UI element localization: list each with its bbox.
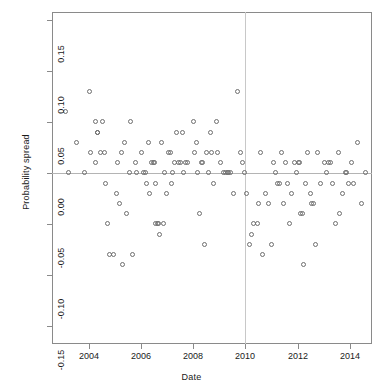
- data-point: [260, 252, 265, 257]
- data-point: [180, 130, 185, 135]
- data-point: [351, 181, 356, 186]
- data-point: [258, 150, 263, 155]
- y-tick-label: 0.05: [56, 122, 66, 139]
- data-point: [349, 160, 354, 165]
- data-point: [169, 181, 174, 186]
- data-point: [153, 181, 158, 186]
- y-tick-mark: [47, 224, 52, 225]
- data-point: [111, 252, 116, 257]
- x-tick-label: 2014: [340, 351, 360, 361]
- plot-area-border: [52, 12, 372, 344]
- data-point: [255, 221, 260, 226]
- data-point: [122, 140, 127, 145]
- data-point: [119, 150, 124, 155]
- data-point: [336, 150, 341, 155]
- y-axis-title: Probability spread: [21, 92, 31, 252]
- y-tick-label: 0.15: [56, 20, 66, 37]
- data-point: [340, 191, 345, 196]
- data-point: [192, 150, 197, 155]
- data-point: [231, 191, 236, 196]
- data-point: [208, 130, 213, 135]
- data-point: [133, 160, 138, 165]
- data-point: [103, 181, 108, 186]
- x-tick-label: 2006: [131, 351, 151, 361]
- data-point: [168, 150, 173, 155]
- data-point: [240, 160, 245, 165]
- y-tick-label: -0.05: [56, 224, 66, 241]
- x-tick-label: 2004: [79, 351, 99, 361]
- y-tick-label: -0.15: [56, 326, 66, 343]
- data-point: [269, 242, 274, 247]
- data-point: [300, 211, 305, 216]
- data-point: [281, 201, 286, 206]
- data-point: [303, 181, 308, 186]
- data-point: [266, 201, 271, 206]
- data-point: [247, 242, 252, 247]
- y-tick-label: 0.10: [56, 71, 66, 88]
- y-tick-mark: [47, 122, 52, 123]
- year-2010-reference-line: [245, 12, 246, 344]
- data-point: [146, 140, 151, 145]
- data-point: [139, 150, 144, 155]
- data-point: [144, 181, 149, 186]
- data-point: [244, 191, 249, 196]
- data-point: [249, 232, 254, 237]
- x-axis-title: Date: [0, 372, 383, 382]
- data-point: [235, 89, 240, 94]
- data-point: [93, 160, 98, 165]
- data-point: [308, 191, 313, 196]
- y-tick-mark: [47, 20, 52, 21]
- data-point: [194, 140, 199, 145]
- x-tick-label: 2010: [235, 351, 255, 361]
- x-tick-mark: [89, 344, 90, 349]
- data-point: [114, 191, 119, 196]
- x-tick-label: 2012: [288, 351, 308, 361]
- data-point: [117, 201, 122, 206]
- data-point: [242, 170, 247, 175]
- y-tick-label: 0.00: [56, 173, 66, 190]
- data-point: [301, 262, 306, 267]
- data-point: [263, 191, 268, 196]
- data-point: [359, 201, 364, 206]
- y-tick-mark: [47, 173, 52, 174]
- x-tick-mark: [350, 344, 351, 349]
- data-point: [279, 150, 284, 155]
- x-tick-mark: [245, 344, 246, 349]
- y-tick-mark: [47, 275, 52, 276]
- data-point: [157, 232, 162, 237]
- data-point: [330, 181, 335, 186]
- x-tick-mark: [141, 344, 142, 349]
- scatter-plot: 200420062008201020122014 0.150.100.050.0…: [0, 0, 383, 391]
- data-point: [283, 160, 288, 165]
- x-tick-label: 2008: [183, 351, 203, 361]
- data-point: [285, 181, 290, 186]
- data-point: [305, 150, 310, 155]
- data-point: [318, 181, 323, 186]
- x-tick-mark: [298, 344, 299, 349]
- data-point: [161, 221, 166, 226]
- y-tick-mark: [47, 326, 52, 327]
- y-tick-mark: [47, 71, 52, 72]
- data-point: [102, 150, 107, 155]
- x-tick-mark: [193, 344, 194, 349]
- data-point: [355, 140, 360, 145]
- data-point: [277, 181, 282, 186]
- y-tick-label: -0.10: [56, 275, 66, 292]
